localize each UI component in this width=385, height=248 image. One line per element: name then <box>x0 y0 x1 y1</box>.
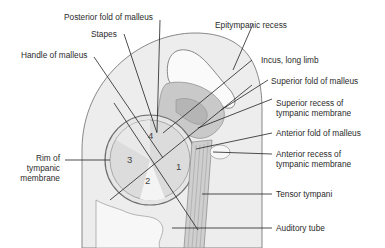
label-stapes: Stapes <box>91 29 117 39</box>
label-rim-line2: tympanic <box>27 163 60 173</box>
label-anterior-recess-line2: tympanic membrane <box>276 159 352 169</box>
label-posterior-fold-of-malleus: Posterior fold of malleus <box>64 12 153 22</box>
quadrant-1: 1 <box>176 161 181 172</box>
ear-anatomy-figure: 1 2 3 4 Posterior fold of malleus Stapes… <box>0 0 385 248</box>
label-anterior-fold-of-malleus: Anterior fold of malleus <box>276 128 361 138</box>
label-tensor-tympani: Tensor tympani <box>276 189 332 199</box>
label-superior-recess-line2: tympanic membrane <box>276 108 352 118</box>
label-superior-recess-line1: Superior recess of <box>276 98 344 108</box>
label-epitympanic-recess: Epitympanic recess <box>215 20 287 30</box>
label-superior-fold-of-malleus: Superior fold of malleus <box>271 76 358 86</box>
label-handle-of-malleus: Handle of malleus <box>21 50 87 60</box>
quadrant-2: 2 <box>145 175 150 186</box>
quadrant-3: 3 <box>127 154 132 165</box>
label-anterior-recess-line1: Anterior recess of <box>276 149 342 159</box>
label-incus-long-limb: Incus, long limb <box>261 55 319 65</box>
label-auditory-tube: Auditory tube <box>276 223 325 233</box>
label-rim-line3: membrane <box>20 173 60 183</box>
label-rim-line1: Rim of <box>36 153 61 163</box>
